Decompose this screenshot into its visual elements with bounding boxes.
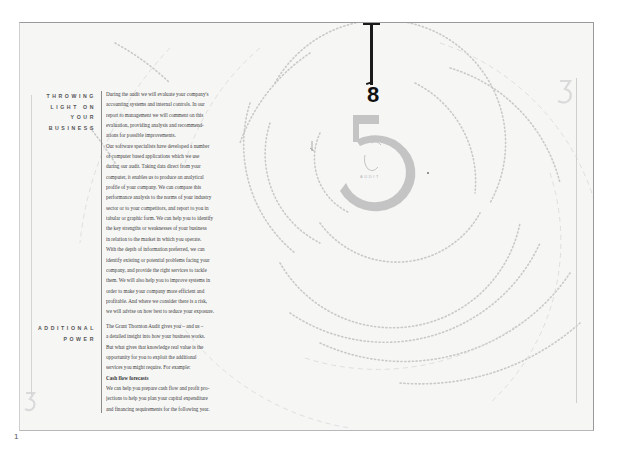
heading-line: ADDITIONAL xyxy=(38,323,96,334)
dotted-arc xyxy=(314,133,350,213)
dashed-arc xyxy=(440,43,594,203)
body-line: accounting systems and internal controls… xyxy=(106,99,251,109)
body-line: identify existing or potential problems … xyxy=(106,255,251,265)
body-line: The Grant Thornton Audit gives you – and… xyxy=(106,321,251,331)
heading-line: POWER xyxy=(63,334,96,345)
body-line: we will advise on how best to reduce you… xyxy=(106,306,251,316)
corner-glyph xyxy=(25,393,35,410)
body-line: tabular or graphic form. We can help you… xyxy=(106,213,251,223)
body-line: We can help you prepare cash flow and pr… xyxy=(106,383,251,393)
big-numeral: 8 xyxy=(360,84,386,106)
subheading-cash-flow: Cash flow forecasts xyxy=(106,373,251,383)
right-margin-rule xyxy=(576,78,577,403)
body-line: a detailed insight into how your busines… xyxy=(106,331,251,341)
column-rule xyxy=(101,321,102,413)
body-line: But what gives that knowledge real value… xyxy=(106,342,251,352)
body-line: During the audit we will evaluate your c… xyxy=(106,89,251,99)
section-body-throwing-light: During the audit we will evaluate your c… xyxy=(106,89,251,317)
body-line: in relation to the market in which you o… xyxy=(106,234,251,244)
section-body-additional-power: The Grant Thornton Audit gives you – and… xyxy=(106,321,251,414)
body-line: performance analysis to the norms of you… xyxy=(106,192,251,202)
heading-line: THROWING xyxy=(46,91,96,102)
body-line: Our software specialists have developed … xyxy=(106,141,251,151)
heading-line: LIGHT ON xyxy=(50,102,96,113)
section-heading-additional-power: ADDITIONAL POWER xyxy=(40,323,96,345)
dotted-arc xyxy=(400,323,580,384)
body-line: profitable. And where we consider there … xyxy=(106,296,251,306)
body-line: opportunity for you to exploit the addit… xyxy=(106,352,251,362)
audit-emblem: AUDIT xyxy=(340,115,415,211)
dashed-arc xyxy=(490,173,561,403)
dotted-arc xyxy=(275,23,506,203)
body-line: and financing requirements for the follo… xyxy=(106,404,251,414)
dotted-arc xyxy=(415,83,476,193)
heading-line: YOUR xyxy=(71,112,96,123)
dotted-arc xyxy=(280,223,520,328)
section-heading-throwing-light: THROWING LIGHT ON YOUR BUSINESS xyxy=(40,91,96,135)
body-line: computer, it enables us to produce an an… xyxy=(106,172,251,182)
heading-line: BUSINESS xyxy=(49,123,96,134)
left-margin-rule xyxy=(31,95,32,395)
page-number: 1 xyxy=(14,432,18,441)
body-line: during our audit. Taking data direct fro… xyxy=(106,161,251,171)
dotted-arc xyxy=(244,103,295,253)
body-line: them. We will also help you to improve s… xyxy=(106,275,251,285)
pendulum-line xyxy=(370,23,373,85)
dotted-arc xyxy=(320,213,480,262)
dotted-arc xyxy=(290,243,540,342)
body-line: sector or to your competitors, and repor… xyxy=(106,203,251,213)
body-line: company, and provide the right services … xyxy=(106,265,251,275)
body-line: ations for possible improvements. xyxy=(106,130,251,140)
dotted-arc xyxy=(450,68,560,183)
body-line: evaluation, providing analysis and recom… xyxy=(106,120,251,130)
corner-glyph xyxy=(558,81,571,103)
brochure-page: AUDIT 8 THROWING LIGHT ON YOUR BUSINESS … xyxy=(19,22,594,431)
emblem-caption: AUDIT xyxy=(360,174,380,179)
dashed-arc xyxy=(305,323,520,369)
body-line: report to management we will comment on … xyxy=(106,110,251,120)
column-rule xyxy=(101,91,102,323)
dotted-arc xyxy=(115,43,170,83)
body-line: With the depth of information preferred,… xyxy=(106,244,251,254)
body-line: jections to help you plan your capital e… xyxy=(106,393,251,403)
body-line: the key strengths or weaknesses of your … xyxy=(106,223,251,233)
body-line: services you might require. For example: xyxy=(106,362,251,372)
body-line: order to make your company more efficien… xyxy=(106,286,251,296)
body-line: of computer based applications which we … xyxy=(106,151,251,161)
body-line: profile of your company. We can compare … xyxy=(106,182,251,192)
